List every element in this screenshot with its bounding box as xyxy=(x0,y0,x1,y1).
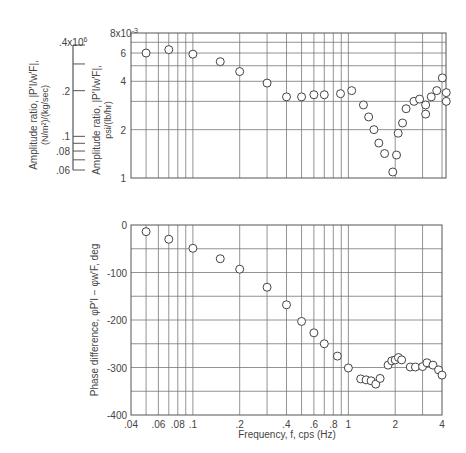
data-point xyxy=(402,105,410,113)
y-tick-label: -100 xyxy=(107,268,127,279)
x-tick-label: 1 xyxy=(346,419,352,430)
y-tick-label: -200 xyxy=(107,315,127,326)
data-point xyxy=(263,283,271,291)
data-point xyxy=(398,356,406,364)
y-tick-label: 1 xyxy=(120,173,126,184)
y-tick-label: -300 xyxy=(107,363,127,374)
data-point xyxy=(189,244,197,252)
y-tick-label: 4 xyxy=(120,76,126,87)
data-point xyxy=(142,49,150,57)
si-ylabel-line1: Amplitude ratio, |P'I/w'F|, xyxy=(28,60,39,170)
si-tick-label: .1 xyxy=(62,131,71,142)
data-point xyxy=(236,265,244,273)
top-ylabel-line2: psi/(lb/hr) xyxy=(103,101,113,139)
data-point xyxy=(422,110,430,118)
axis-labels: 8x10-3 .4x106 Amplitude ratio, |P'I/w'F|… xyxy=(28,27,336,440)
data-point xyxy=(216,58,224,66)
x-tick-label: .08 xyxy=(171,419,185,430)
data-point xyxy=(381,150,389,158)
y-tick-label: 0 xyxy=(121,220,127,231)
data-point xyxy=(236,68,244,76)
data-point xyxy=(165,235,173,243)
data-point xyxy=(320,91,328,99)
data-point xyxy=(216,255,224,263)
data-point xyxy=(263,79,271,87)
si-tick-label: .2 xyxy=(62,86,71,97)
data-point xyxy=(442,97,450,105)
amplitude-chart: 1246 xyxy=(120,33,450,184)
data-point xyxy=(310,91,318,99)
data-point xyxy=(359,101,367,109)
data-point xyxy=(142,228,150,236)
data-point xyxy=(365,113,373,121)
y-tick-label: 2 xyxy=(120,125,126,136)
data-point xyxy=(433,87,441,95)
data-point xyxy=(344,364,352,372)
data-point xyxy=(165,46,173,54)
phase-chart: 0-100-200-300-400.04.06.08.1.2.4.6.8124 xyxy=(107,220,446,430)
data-point xyxy=(438,74,446,82)
top-y-multiplier: 8x10-3 xyxy=(110,27,138,39)
data-point xyxy=(283,93,291,101)
data-point xyxy=(370,126,378,134)
si-tick-label: .08 xyxy=(56,146,70,157)
si-tick-label: .06 xyxy=(56,165,70,176)
data-point xyxy=(310,329,318,337)
data-point xyxy=(376,374,384,382)
y-tick-label: 6 xyxy=(120,48,126,59)
data-point xyxy=(320,340,328,348)
si-secondary-axis: .2.1.08.06 xyxy=(56,45,85,176)
data-point xyxy=(438,371,446,379)
x-tick-label: 2 xyxy=(392,419,398,430)
data-point xyxy=(337,90,345,98)
x-tick-label: .06 xyxy=(151,419,165,430)
data-point xyxy=(298,93,306,101)
data-point xyxy=(394,129,402,137)
data-point xyxy=(189,50,197,58)
data-point xyxy=(333,352,341,360)
data-point xyxy=(375,139,383,147)
data-point xyxy=(399,119,407,127)
x-tick-label: .04 xyxy=(124,419,138,430)
si-ylabel-line2: (N/m²)/(kg/sec) xyxy=(40,85,50,145)
x-axis-label: Frequency, f, cps (Hz) xyxy=(238,429,336,440)
data-point xyxy=(348,87,356,95)
si-top-tick: .4x106 xyxy=(59,36,87,48)
data-point xyxy=(442,89,450,97)
data-point xyxy=(283,301,291,309)
x-tick-label: .1 xyxy=(189,419,198,430)
data-point xyxy=(389,168,397,176)
figure: 1246 .2.1.08.06 0-100-200-300-400.04.06.… xyxy=(0,0,466,453)
x-tick-label: 4 xyxy=(439,419,445,430)
data-point xyxy=(393,151,401,159)
data-point xyxy=(422,101,430,109)
data-point xyxy=(298,317,306,325)
top-ylabel-line1: Amplitude ratio, |P'I/w'F|, xyxy=(91,65,102,175)
bottom-ylabel: Phase difference, φP'I − φw'F, deg xyxy=(89,244,100,397)
